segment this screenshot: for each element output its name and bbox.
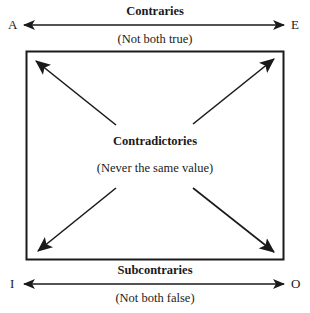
corner-label-i: I: [10, 277, 14, 291]
subcontraries-label: Subcontraries: [118, 263, 193, 277]
subcontraries-description: (Not both false): [115, 291, 194, 305]
contraries-description: (Not both true): [118, 32, 193, 46]
contradictories-description: (Never the same value): [97, 161, 213, 175]
contradictories-label: Contradictories: [113, 134, 197, 148]
corner-label-o: O: [291, 277, 300, 291]
corner-label-a: A: [8, 18, 17, 32]
diagonal-arrow-to-a: [36, 61, 116, 125]
diagonal-arrow-to-i: [38, 188, 116, 251]
diagonal-arrow-to-e: [193, 59, 274, 124]
corner-label-e: E: [291, 18, 299, 32]
diagonal-arrow-to-o: [193, 188, 274, 252]
contraries-label: Contraries: [126, 4, 184, 18]
